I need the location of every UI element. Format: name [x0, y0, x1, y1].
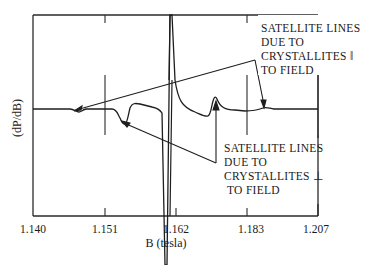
x-tick-1-151: 1.151 — [92, 223, 118, 235]
svg-text:DUE TO: DUE TO — [224, 156, 267, 168]
annotation-parallel: SATELLITE LINES DUE TO CRYSTALLITES ‖ TO… — [258, 15, 378, 76]
svg-text:TO FIELD: TO FIELD — [227, 184, 280, 196]
x-tick-1-183: 1.183 — [238, 223, 264, 235]
svg-text:DUE TO: DUE TO — [261, 36, 304, 48]
center-line-trace — [169, 15, 172, 216]
svg-text:CRYSTALLITES ⊥: CRYSTALLITES ⊥ — [224, 170, 323, 182]
annotation-perp: SATELLITE LINES DUE TO CRYSTALLITES ⊥ TO… — [222, 138, 323, 204]
x-tick-1-140: 1.140 — [20, 223, 46, 235]
svg-text:SATELLITE LINES: SATELLITE LINES — [224, 142, 323, 154]
esr-chart: (dP/dB) B (tesla) 1.140 1.151 1.162 1.18… — [0, 0, 388, 265]
y-axis-label: (dP/dB) — [10, 99, 24, 137]
x-tick-1-207: 1.207 — [303, 223, 329, 235]
svg-text:TO FIELD: TO FIELD — [261, 64, 314, 76]
svg-text:SATELLITE LINES: SATELLITE LINES — [261, 22, 360, 34]
x-tick-1-162: 1.162 — [163, 223, 189, 235]
svg-text:CRYSTALLITES ‖: CRYSTALLITES ‖ — [261, 50, 353, 62]
x-axis-label: B (tesla) — [146, 236, 187, 250]
